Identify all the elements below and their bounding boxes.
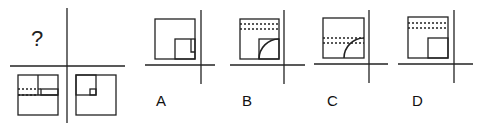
option-a-label[interactable]: A [156,92,166,109]
option-b-figure [230,10,305,84]
bottom-left-figure [18,75,58,115]
option-a-figure [145,10,215,84]
puzzle-diagram [0,0,478,127]
bottom-right-figure [76,75,116,115]
option-b-label[interactable]: B [242,92,252,109]
option-c-label[interactable]: C [327,92,338,109]
option-d-figure [398,10,473,83]
question-mark: ? [31,26,43,52]
option-d-label[interactable]: D [412,92,423,109]
option-c-figure [314,10,388,83]
